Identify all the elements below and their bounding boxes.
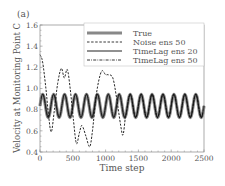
x-tick-label: 1500 xyxy=(129,154,148,163)
chart-figure: (a) 05001000150020002500 0.40.60.81.01.2… xyxy=(0,0,225,186)
x-tick-label: 500 xyxy=(66,154,81,163)
x-tick-label: 0 xyxy=(38,154,43,163)
legend-label-timelag20: TimeLag ens 20 xyxy=(133,47,198,56)
panel-label: (a) xyxy=(17,9,29,19)
legend-label-noise: Noise ens 50 xyxy=(133,38,185,47)
x-tick-label: 2500 xyxy=(194,154,213,163)
y-tick-label: 1.2 xyxy=(26,63,38,72)
y-tick-label: 1.4 xyxy=(26,42,38,51)
plot-series xyxy=(40,55,204,147)
y-tick-label: 1.6 xyxy=(26,21,38,30)
x-axis-label: Time step xyxy=(100,163,145,173)
x-axis: 05001000150020002500 xyxy=(38,150,214,164)
legend-label-timelag50: TimeLag ens 50 xyxy=(133,56,198,65)
x-tick-label: 2000 xyxy=(162,154,181,163)
legend: True Noise ens 50 TimeLag ens 20 TimeLag… xyxy=(84,23,204,66)
y-tick-label: 1.0 xyxy=(26,84,38,93)
y-axis-label: Velocity at Monitoring Point C xyxy=(12,23,22,154)
y-tick-label: 0.8 xyxy=(26,105,38,114)
legend-label-true: True xyxy=(133,29,152,38)
y-tick-label: 0.6 xyxy=(26,127,38,136)
y-tick-label: 0.4 xyxy=(26,148,38,157)
line-chart: (a) 05001000150020002500 0.40.60.81.01.2… xyxy=(0,0,225,186)
x-tick-label: 1000 xyxy=(96,154,115,163)
